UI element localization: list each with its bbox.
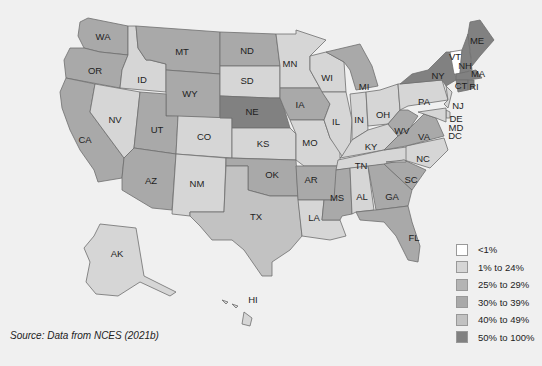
label-WY: WY [182,88,198,99]
label-CA: CA [78,134,92,145]
legend-swatch [456,331,468,343]
legend-label: 50% to 100% [478,332,535,343]
legend-item: 50% to 100% [456,329,535,347]
label-IN: IN [354,114,364,125]
label-FL: FL [408,232,419,243]
legend-swatch [456,244,468,256]
label-NY: NY [431,70,445,81]
label-CO: CO [197,131,211,142]
label-MS: MS [330,192,344,203]
label-AL: AL [356,191,368,202]
legend-swatch [456,296,468,308]
label-RI: RI [469,81,479,92]
label-MA: MA [471,68,486,79]
label-WA: WA [96,31,112,42]
label-HI: HI [248,294,258,305]
label-AZ: AZ [145,175,157,186]
label-LA: LA [308,212,320,223]
legend-label: 30% to 39% [478,297,529,308]
label-OR: OR [88,65,102,76]
legend-item: 1% to 24% [456,259,535,277]
label-OH: OH [376,109,390,120]
label-NV: NV [108,114,122,125]
label-SD: SD [240,75,253,86]
label-ND: ND [240,45,254,56]
label-MN: MN [283,58,298,69]
label-MI: MI [359,81,370,92]
legend-label: 25% to 29% [478,279,529,290]
label-CT: CT [455,80,468,91]
label-IL: IL [332,116,340,127]
legend-label: 40% to 49% [478,314,529,325]
label-TX: TX [250,211,263,222]
legend-swatch [456,261,468,273]
legend-swatch [456,279,468,291]
label-ME: ME [470,35,484,46]
legend-item: 30% to 39% [456,294,535,312]
label-NM: NM [190,178,205,189]
label-WV: WV [394,125,410,136]
label-KY: KY [365,141,378,152]
legend-swatch [456,314,468,326]
legend-label: 1% to 24% [478,262,524,273]
label-NJ: NJ [452,100,464,111]
label-KS: KS [257,138,270,149]
legend-item: 40% to 49% [456,311,535,329]
label-MO: MO [302,137,317,148]
label-AR: AR [304,174,317,185]
map-legend: <1% 1% to 24% 25% to 29% 30% to 39% 40% … [456,241,535,346]
label-NE: NE [245,106,258,117]
label-UT: UT [151,124,164,135]
label-OK: OK [265,169,279,180]
label-DC: DC [448,130,462,141]
label-AK: AK [111,248,124,259]
label-GA: GA [385,191,399,202]
label-VA: VA [418,131,431,142]
label-MT: MT [175,46,189,57]
legend-item: <1% [456,241,535,259]
label-TN: TN [355,160,368,171]
label-SC: SC [404,174,417,185]
legend-label: <1% [478,244,497,255]
label-ID: ID [137,74,147,85]
label-WI: WI [321,72,333,83]
source-caption: Source: Data from NCES (2021b) [10,330,159,341]
label-NC: NC [416,153,430,164]
state-NY [400,52,456,86]
label-IA: IA [296,99,306,110]
legend-item: 25% to 29% [456,276,535,294]
state-AK [84,224,176,296]
label-PA: PA [418,96,431,107]
